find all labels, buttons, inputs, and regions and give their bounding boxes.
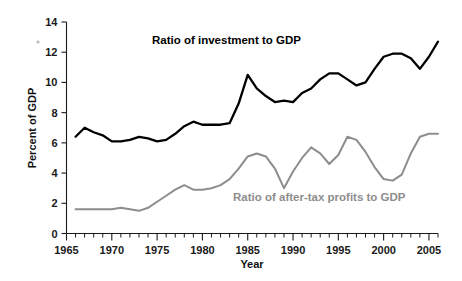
x-tick-label-1980: 1980 <box>190 244 214 256</box>
y-tick-label-4: 4 <box>51 167 58 179</box>
x-tick-label-1965: 1965 <box>54 244 78 256</box>
scan-speck <box>36 40 39 43</box>
y-tick-label-6: 6 <box>51 137 57 149</box>
x-tick-label-1985: 1985 <box>235 244 259 256</box>
y-tick-label-0: 0 <box>51 228 57 240</box>
y-tick-label-2: 2 <box>51 197 57 209</box>
x-tick-label-1990: 1990 <box>281 244 305 256</box>
line-chart: 02468101214 Percent of GDP 1965197019751… <box>0 0 462 281</box>
x-tick-label-1975: 1975 <box>145 244 169 256</box>
y-tick-label-8: 8 <box>51 107 57 119</box>
series-label-investment: Ratio of investment to GDP <box>152 34 301 46</box>
x-axis-tick-labels: 196519701975198019851990199520002005 <box>54 244 441 256</box>
y-tick-label-10: 10 <box>45 76 57 88</box>
x-tick-label-2000: 2000 <box>371 244 395 256</box>
x-tick-label-1995: 1995 <box>326 244 350 256</box>
y-tick-label-14: 14 <box>45 16 58 28</box>
y-tick-label-12: 12 <box>45 46 57 58</box>
chart-container: 02468101214 Percent of GDP 1965197019751… <box>0 0 462 281</box>
x-tick-label-2005: 2005 <box>417 244 441 256</box>
series-label-profits: Ratio of after-tax profits to GDP <box>233 191 406 203</box>
x-tick-label-1970: 1970 <box>100 244 124 256</box>
x-axis-title: Year <box>240 258 264 270</box>
y-axis-title: Percent of GDP <box>26 88 38 169</box>
